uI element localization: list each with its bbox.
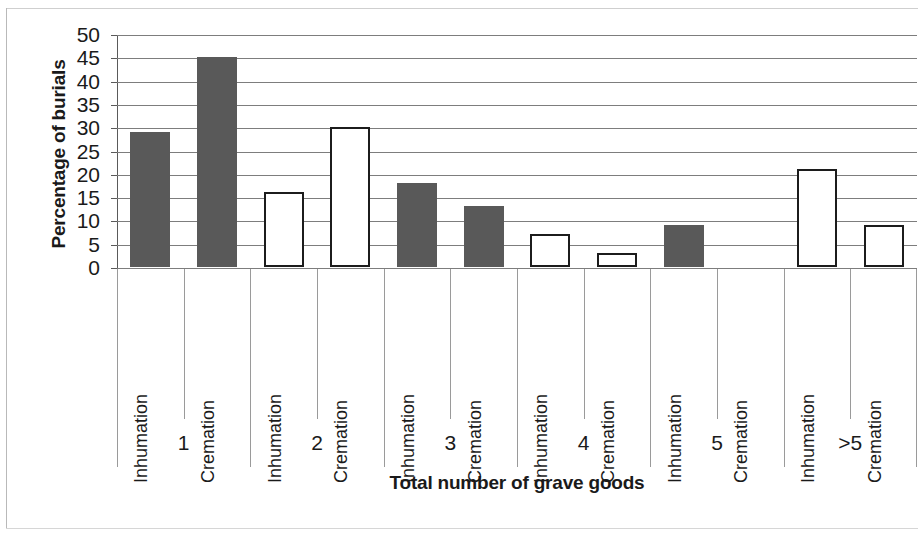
y-axis-tick-label: 20 (58, 164, 100, 185)
subcategory-label-cell: Cremation (184, 269, 251, 419)
y-axis-tick-labels: 05101520253035404550 (58, 0, 100, 536)
group-separator (117, 419, 118, 467)
subcategory-label-cell: Cremation (850, 269, 917, 419)
bar (130, 132, 170, 267)
subcategory-label-cell: Cremation (317, 269, 384, 419)
group-separator (916, 419, 917, 467)
subcategory-label-cell: Cremation (717, 269, 784, 419)
y-axis-tick (111, 128, 117, 129)
y-axis-tick-label: 50 (58, 24, 100, 45)
subcategory-separator (650, 269, 651, 419)
group-label: >5 (784, 419, 917, 467)
y-axis-tick-label: 25 (58, 141, 100, 162)
subcategory-separator (916, 269, 917, 419)
figure-border-left (6, 8, 7, 528)
gridline (117, 82, 917, 83)
bar (797, 169, 837, 267)
y-axis-tick-label: 40 (58, 71, 100, 92)
group-label-band: 12345>5 (117, 419, 917, 467)
y-axis-tick (111, 245, 117, 246)
subcategory-separator (384, 269, 385, 419)
group-separator (250, 419, 251, 467)
bar-chart-figure: Percentage of burials 051015202530354045… (0, 0, 924, 536)
gridline (117, 105, 917, 106)
subcategory-label-band: InhumationCremationInhumationCremationIn… (117, 269, 917, 419)
y-axis-tick (111, 58, 117, 59)
bar (330, 127, 370, 267)
subcategory-label-cell: Inhumation (517, 269, 584, 419)
gridline (117, 58, 917, 59)
bar (864, 225, 904, 267)
subcategory-separator (584, 269, 585, 419)
group-separator (784, 419, 785, 467)
group-label: 1 (117, 419, 250, 467)
y-axis-tick (111, 198, 117, 199)
subcategory-separator (850, 269, 851, 419)
subcategory-label-cell: Cremation (450, 269, 517, 419)
subcategory-separator (450, 269, 451, 419)
subcategory-label-cell: Cremation (584, 269, 651, 419)
bar (664, 225, 704, 267)
y-axis-tick (111, 175, 117, 176)
group-separator (384, 419, 385, 467)
group-label: 5 (650, 419, 783, 467)
subcategory-separator (117, 269, 118, 419)
y-axis-tick-label: 30 (58, 117, 100, 138)
bar (197, 57, 237, 267)
y-axis-tick (111, 152, 117, 153)
subcategory-separator (184, 269, 185, 419)
gridline (117, 35, 917, 36)
bar (597, 253, 637, 267)
subcategory-separator (784, 269, 785, 419)
group-label: 3 (384, 419, 517, 467)
y-axis-tick-label: 45 (58, 47, 100, 68)
y-axis-tick (111, 105, 117, 106)
plot-area (117, 35, 917, 268)
subcategory-label-cell: Inhumation (784, 269, 851, 419)
group-separator (650, 419, 651, 467)
bar (530, 234, 570, 267)
gridline (117, 152, 917, 153)
group-label: 4 (517, 419, 650, 467)
figure-border-bottom (6, 528, 918, 529)
subcategory-separator (717, 269, 718, 419)
subcategory-label-cell: Inhumation (117, 269, 184, 419)
y-axis-tick-label: 10 (58, 210, 100, 231)
y-axis-tick-label: 15 (58, 187, 100, 208)
subcategory-separator (517, 269, 518, 419)
figure-border-top (6, 8, 918, 9)
bar (397, 183, 437, 267)
y-axis-tick-label: 5 (58, 234, 100, 255)
gridline (117, 128, 917, 129)
subcategory-separator (250, 269, 251, 419)
bar (464, 206, 504, 267)
group-separator (517, 419, 518, 467)
group-label: 2 (250, 419, 383, 467)
subcategory-separator (317, 269, 318, 419)
subcategory-label-cell: Inhumation (650, 269, 717, 419)
bar (264, 192, 304, 267)
y-axis-tick (111, 82, 117, 83)
y-axis-tick-label: 0 (58, 257, 100, 278)
subcategory-label-cell: Inhumation (250, 269, 317, 419)
y-axis-tick (111, 35, 117, 36)
subcategory-label-cell: Inhumation (384, 269, 451, 419)
y-axis-tick-label: 35 (58, 94, 100, 115)
y-axis-tick (111, 221, 117, 222)
x-axis-title: Total number of grave goods (117, 472, 917, 494)
